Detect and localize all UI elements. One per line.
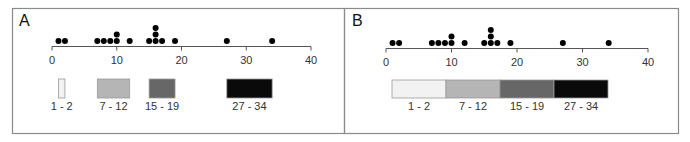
panel-a-axis: 010203040 <box>49 47 317 66</box>
x-tick-label: 0 <box>383 56 389 68</box>
data-point <box>269 38 275 44</box>
x-tick-label: 0 <box>49 54 55 66</box>
data-point <box>127 38 133 44</box>
data-point <box>146 38 152 44</box>
panel-b-axis: 010203040 <box>383 49 654 68</box>
x-tick-label: 30 <box>576 56 588 68</box>
data-point <box>494 40 500 46</box>
x-tick-label: 20 <box>511 56 523 68</box>
data-point <box>481 40 487 46</box>
legend-label: 1 - 2 <box>408 100 430 112</box>
legend-label: 7 - 12 <box>459 100 487 112</box>
data-point <box>396 40 402 46</box>
data-point <box>488 27 494 33</box>
data-point <box>606 40 612 46</box>
x-tick-label: 30 <box>240 54 252 66</box>
data-point <box>94 38 100 44</box>
panel-b: B 010203040 1 - 27 - 1215 - 1927 - 34 <box>345 9 679 134</box>
legend-swatch <box>446 80 500 98</box>
legend-label: 27 - 34 <box>564 100 598 112</box>
legend-label: 15 - 19 <box>145 100 179 112</box>
data-point <box>114 32 120 38</box>
legend-label: 15 - 19 <box>510 100 544 112</box>
data-point <box>560 40 566 46</box>
data-point <box>442 40 448 46</box>
data-point <box>507 40 513 46</box>
data-point <box>435 40 441 46</box>
x-tick-label: 40 <box>642 56 654 68</box>
data-point <box>55 38 61 44</box>
x-tick-label: 40 <box>305 54 317 66</box>
panel-a: A 010203040 1 - 27 - 1215 - 1927 - 34 <box>13 9 345 134</box>
data-point <box>488 40 494 46</box>
data-point <box>390 40 396 46</box>
panel-a-label: A <box>19 12 30 29</box>
legend-swatch <box>227 79 272 98</box>
data-point <box>153 38 159 44</box>
panel-b-dots <box>390 27 612 46</box>
legend-swatch <box>149 79 175 98</box>
data-point <box>62 38 68 44</box>
x-tick-label: 10 <box>445 56 457 68</box>
legend-swatch <box>500 80 554 98</box>
panel-b-border <box>345 9 679 134</box>
data-point <box>114 38 120 44</box>
data-point <box>449 34 455 40</box>
x-tick-label: 20 <box>175 54 187 66</box>
panel-b-label: B <box>352 12 363 29</box>
data-point <box>153 32 159 38</box>
data-point <box>153 25 159 31</box>
data-point <box>462 40 468 46</box>
figure: A 010203040 1 - 27 - 1215 - 1927 - 34 B … <box>0 0 690 142</box>
panel-b-legend: 1 - 27 - 1215 - 1927 - 34 <box>392 80 608 112</box>
legend-swatch <box>97 79 129 98</box>
data-point <box>159 38 165 44</box>
data-point <box>449 40 455 46</box>
legend-swatch <box>554 80 608 98</box>
legend-label: 27 - 34 <box>232 100 266 112</box>
data-point <box>107 38 113 44</box>
data-point <box>429 40 435 46</box>
data-point <box>101 38 107 44</box>
x-tick-label: 10 <box>111 54 123 66</box>
panel-a-border <box>13 9 345 134</box>
data-point <box>488 34 494 40</box>
legend-label: 1 - 2 <box>51 100 73 112</box>
panel-a-dots <box>55 25 275 44</box>
data-point <box>224 38 230 44</box>
data-point <box>172 38 178 44</box>
legend-label: 7 - 12 <box>99 100 127 112</box>
legend-swatch <box>58 79 64 98</box>
panel-a-legend: 1 - 27 - 1215 - 1927 - 34 <box>51 79 272 112</box>
legend-swatch <box>392 80 446 98</box>
